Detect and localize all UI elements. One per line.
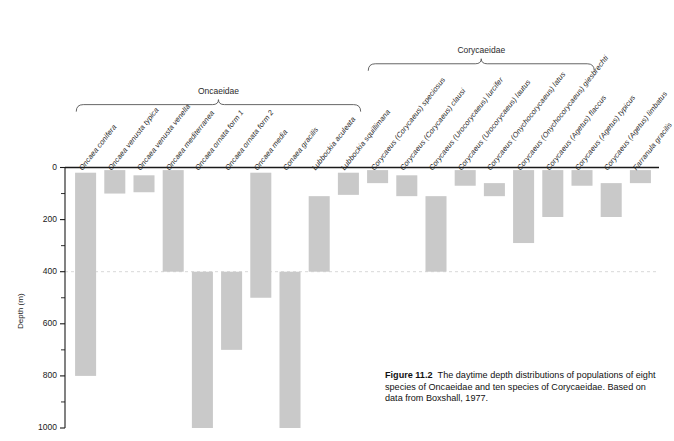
depth-range-bar (279, 272, 300, 428)
group-label: Oncaeidae (198, 86, 239, 96)
y-axis-tick-label: 600 (0, 318, 57, 328)
depth-range-bar (425, 196, 446, 272)
group-label: Corycaeidae (457, 45, 505, 55)
y-axis-tick-label: 200 (0, 214, 57, 224)
y-axis-tick-label: 800 (0, 370, 57, 380)
depth-range-bar (513, 170, 534, 243)
depth-range-bar (163, 170, 184, 272)
depth-range-bar (630, 170, 651, 183)
depth-range-bar (309, 196, 330, 272)
depth-range-bar (484, 183, 505, 196)
group-bracket (368, 59, 594, 71)
depth-range-bar (133, 175, 154, 192)
y-axis-title: Depth (m) (16, 293, 25, 329)
figure-caption: Figure 11.2 The daytime depth distributi… (385, 370, 657, 405)
depth-range-bar (250, 173, 271, 298)
depth-range-bar (75, 173, 96, 376)
depth-range-bar (221, 272, 242, 350)
y-axis-tick-label: 1000 (0, 422, 57, 432)
depth-range-bar (338, 173, 359, 195)
y-axis-tick-label: 400 (0, 266, 57, 276)
depth-range-bar (192, 272, 213, 428)
depth-range-bar (396, 175, 417, 196)
depth-range-bar (104, 170, 125, 193)
figure-number: Figure 11.2 (385, 370, 433, 380)
depth-range-bar (542, 170, 563, 217)
group-bracket (76, 100, 360, 112)
depth-range-bar (455, 170, 476, 186)
depth-range-bar (571, 170, 592, 186)
depth-range-bar (601, 183, 622, 217)
y-axis-tick-label: 0 (0, 162, 57, 172)
depth-range-bar (367, 170, 388, 183)
